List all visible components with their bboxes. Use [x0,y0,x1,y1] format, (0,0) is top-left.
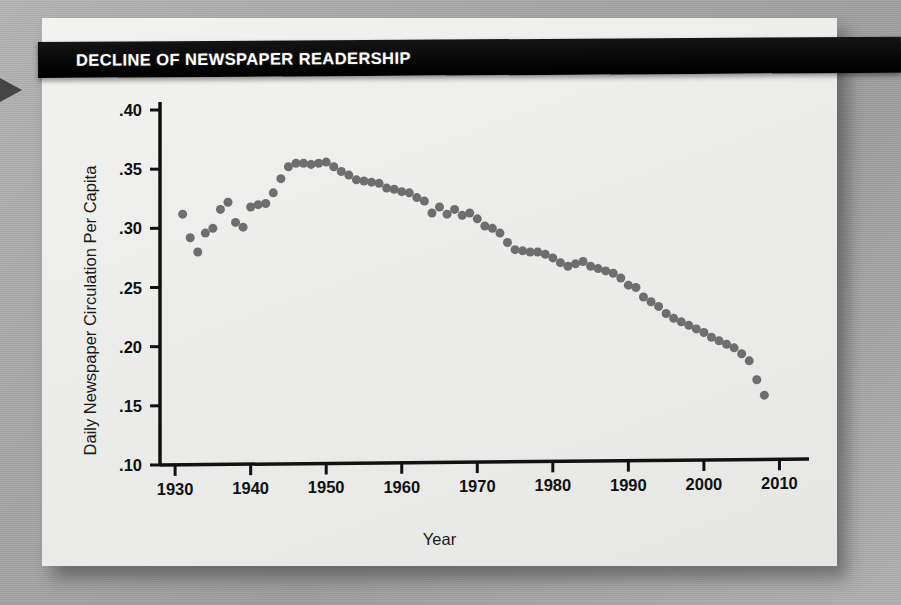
data-point [375,179,384,188]
data-point [511,245,520,254]
data-point [518,246,527,255]
data-point [201,229,210,238]
data-series [178,158,769,400]
data-point [329,162,338,171]
x-tick-label: 1980 [518,476,588,495]
data-point [405,188,414,197]
data-point [730,343,739,352]
data-point [488,224,497,233]
x-tick-label: 1970 [442,477,512,496]
data-point [322,158,331,167]
data-point [427,208,436,217]
y-tick-label: .10 [86,456,142,475]
data-point [503,238,512,247]
x-tick-label: 1940 [216,479,286,498]
data-point [382,184,391,193]
data-point [186,233,195,242]
data-point [359,177,368,186]
data-point [239,223,248,232]
data-point [548,253,557,262]
data-point [276,174,285,183]
data-point [579,257,588,266]
data-point [397,187,406,196]
data-point [254,200,263,209]
y-tick-label: .15 [86,397,142,416]
data-point [465,208,474,217]
data-point [616,274,625,283]
data-point [631,283,640,292]
x-axis [160,459,809,465]
x-tick-label: 2010 [744,474,814,493]
data-point [314,159,323,168]
data-point [752,375,761,384]
y-tick-label: .20 [86,338,142,357]
data-point [760,391,769,400]
data-point [420,197,429,206]
data-point [654,302,663,311]
data-point [450,205,459,214]
data-point [443,210,452,219]
data-point [435,203,444,212]
y-tick-label: .35 [86,160,142,179]
x-tick-label: 1930 [140,480,210,499]
data-point [352,175,361,184]
data-point [344,171,353,180]
x-tick-label: 2000 [669,475,739,494]
data-point [647,297,656,306]
data-point [223,198,232,207]
data-point [662,309,671,318]
data-point [737,349,746,358]
data-point [307,160,316,169]
data-point [261,199,270,208]
x-tick-label: 1950 [291,478,361,497]
data-point [367,178,376,187]
data-point [495,229,504,238]
data-point [193,248,202,257]
y-tick-label: .30 [86,219,142,238]
data-point [231,218,240,227]
data-point [269,188,278,197]
data-point [609,269,618,278]
x-tick-label: 1960 [367,478,437,497]
data-point [299,159,308,168]
data-point [208,224,217,233]
triangle-right-icon [0,78,22,102]
data-point [745,356,754,365]
data-point [699,328,708,337]
data-point [216,205,225,214]
y-tick-label: .40 [86,101,142,120]
scatter-chart: Daily Newspaper Circulation Per Capita Y… [42,18,837,566]
data-point [473,214,482,223]
y-tick-label: .25 [86,279,142,298]
data-point [178,210,187,219]
x-tick-label: 1990 [593,476,663,495]
data-point [639,292,648,301]
